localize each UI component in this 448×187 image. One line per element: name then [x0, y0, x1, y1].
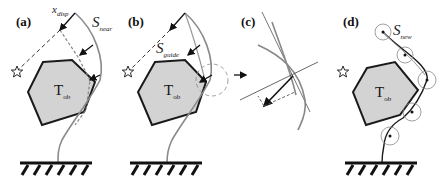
panel-label-b: (b): [128, 14, 144, 30]
s-guide-label: Sguide: [156, 40, 179, 59]
ground-hatch-icon: [130, 163, 202, 175]
ground-hatch-icon: [345, 163, 417, 175]
star-icon: [337, 66, 348, 77]
panel-label-c: (c): [241, 14, 255, 30]
panel-label-d: (d): [343, 14, 359, 30]
s-near-label: Snear: [92, 14, 112, 33]
star-icon: [11, 66, 22, 77]
ground-hatch-icon: [20, 163, 92, 175]
star-icon: [122, 66, 133, 77]
s-new-label: Snew: [393, 22, 412, 41]
figure: (a) (b) (c) (d) Tob Tob Tob xdisp Snear …: [0, 0, 448, 187]
obstacle-label-d: Tob: [375, 84, 391, 103]
x-disp-label: xdisp: [52, 3, 69, 18]
obstacle-label-a: Tob: [54, 82, 70, 101]
panel-label-a: (a): [16, 14, 31, 30]
obstacle-label-b: Tob: [164, 82, 180, 101]
